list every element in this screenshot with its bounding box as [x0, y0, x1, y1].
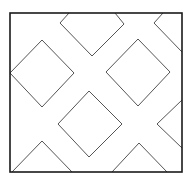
lattice-diagram: [0, 0, 188, 180]
background: [0, 0, 188, 180]
